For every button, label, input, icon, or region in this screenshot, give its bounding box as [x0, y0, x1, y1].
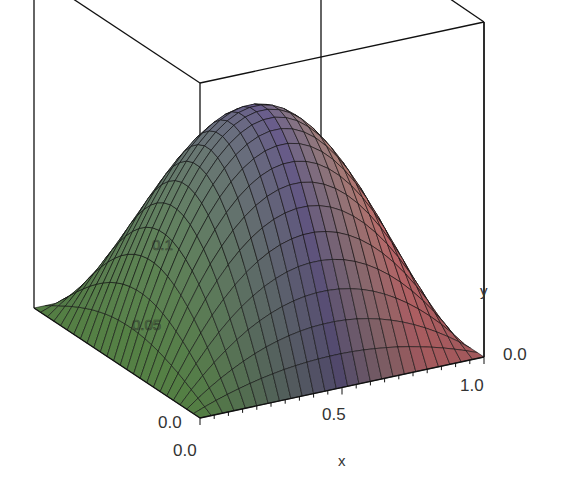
x-tick-label-mid: 0.5	[322, 405, 346, 424]
box-edge-top-right	[321, 0, 484, 22]
y-tick-label-front: 0.0	[158, 413, 182, 432]
box-edge-top-left	[34, 0, 200, 83]
surface-plot: 0.1 0.05 0.0 0.0 0.5 1.0 0.0 x y	[0, 0, 567, 486]
y-tick-label-right: 0.0	[503, 345, 527, 364]
x-tick-label-1: 1.0	[460, 376, 484, 395]
z-tick-label-high: 0.1	[152, 236, 173, 253]
x-tick-label-0: 0.0	[173, 441, 197, 460]
box-edge-top-front	[200, 22, 484, 83]
y-axis-title: y	[480, 282, 488, 299]
x-axis-title: x	[338, 452, 346, 469]
z-tick-label-low: 0.05	[132, 316, 161, 333]
